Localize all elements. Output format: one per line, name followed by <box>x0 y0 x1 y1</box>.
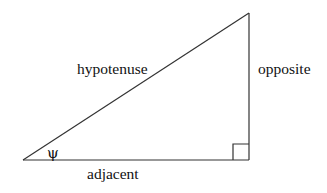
hypotenuse-side <box>23 13 249 160</box>
hypotenuse-label: hypotenuse <box>77 60 148 77</box>
right-angle-marker <box>233 144 249 160</box>
angle-psi-label: ψ <box>47 144 59 162</box>
right-triangle-diagram: hypotenuse opposite adjacent ψ <box>0 0 327 193</box>
triangle <box>23 13 249 160</box>
adjacent-label: adjacent <box>87 165 139 182</box>
opposite-label: opposite <box>258 60 311 77</box>
